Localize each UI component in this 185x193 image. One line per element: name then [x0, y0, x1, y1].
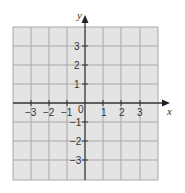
y-tick-label: −3 [70, 155, 82, 166]
y-tick-label: −2 [70, 136, 82, 147]
coordinate-grid-diagram: y x −3 −2 −1 0 1 2 3 3 2 1 −1 −2 −3 [0, 0, 185, 193]
x-tick-label: 3 [137, 107, 143, 118]
y-axis-label: y [76, 9, 82, 21]
x-tick-label: 1 [101, 107, 107, 118]
x-tick-label: −3 [25, 107, 37, 118]
y-axis-arrow-icon [82, 15, 89, 23]
y-tick-label: −1 [70, 117, 82, 128]
y-tick-label: 2 [74, 60, 80, 71]
y-tick-label: 1 [74, 79, 80, 90]
origin-label: 0 [78, 104, 84, 115]
x-tick-label: 2 [119, 107, 125, 118]
x-axis-label: x [166, 105, 172, 117]
x-tick-label: −2 [43, 107, 55, 118]
y-tick-label: 3 [74, 41, 80, 52]
